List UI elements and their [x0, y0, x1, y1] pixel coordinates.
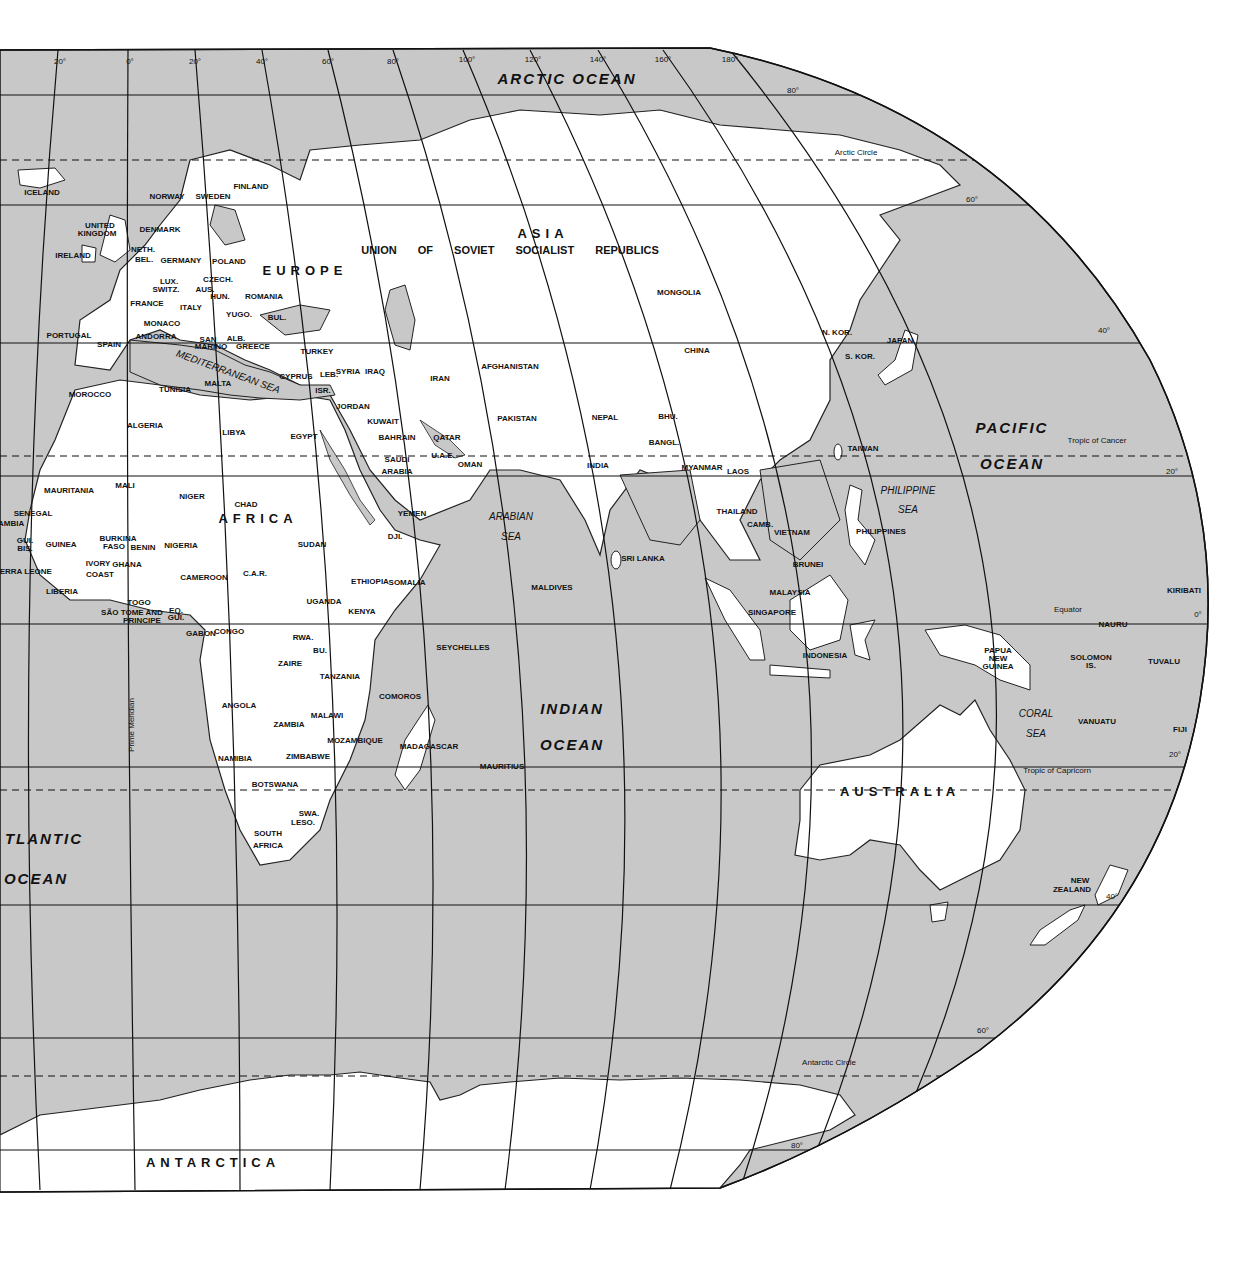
country-label-saudi: SAUDI — [385, 456, 410, 464]
degree-label: 20° — [189, 58, 201, 66]
continent-label-asia: ASIA — [517, 227, 568, 240]
country-label-guinea: GUINEA — [982, 663, 1013, 671]
country-label-comoros: COMOROS — [379, 693, 421, 701]
country-label-mauritania: MAURITANIA — [44, 487, 94, 495]
degree-label: 180° — [722, 56, 739, 64]
ocean-label-arctic-ocean: ARCTIC OCEAN — [498, 71, 637, 86]
ocean-label-ocean: OCEAN — [980, 456, 1044, 471]
country-label-isr: ISR. — [315, 387, 331, 395]
country-label-zaire: ZAIRE — [278, 660, 302, 668]
country-label-niger: NIGER — [179, 493, 204, 501]
country-label-sweden: SWEDEN — [195, 193, 230, 201]
country-label-italy: ITALY — [180, 304, 202, 312]
country-label-bahrain: BAHRAIN — [379, 434, 416, 442]
country-label-maldives: MALDIVES — [531, 584, 572, 592]
country-label-cyprus: CYPRUS — [279, 373, 312, 381]
country-label-sierra-leone: SIERRA LEONE — [0, 568, 52, 576]
country-label-greece: GREECE — [236, 343, 270, 351]
country-label-norway: NORWAY — [149, 193, 184, 201]
ocean-label-indian: INDIAN — [540, 701, 604, 716]
country-label-togo: TOGO — [127, 599, 150, 607]
country-label-gambia: GAMBIA — [0, 520, 24, 528]
country-label-switz: SWITZ. — [152, 286, 179, 294]
country-label-angola: ANGOLA — [222, 702, 257, 710]
country-label-namibia: NAMIBIA — [218, 755, 252, 763]
country-label-ivory: IVORY — [86, 560, 111, 568]
continent-label-europe: EUROPE — [263, 264, 348, 277]
country-label-botswana: BOTSWANA — [252, 781, 299, 789]
degree-label: 40° — [1098, 327, 1110, 335]
ocean-label-ocean: OCEAN — [540, 737, 604, 752]
country-label-camb: CAMB. — [747, 521, 773, 529]
country-label-c-a-r: C.A.R. — [243, 570, 267, 578]
continent-label-africa: AFRICA — [218, 512, 297, 525]
sea-label-sea: SEA — [898, 505, 918, 515]
country-label-poland: POLAND — [212, 258, 246, 266]
degree-label: 120° — [525, 56, 542, 64]
country-label-brunei: BRUNEI — [793, 561, 824, 569]
country-label-s-kor: S. KOR. — [845, 353, 875, 361]
country-label-yemen: YEMEN — [398, 510, 426, 518]
country-label-iran: IRAN — [430, 375, 450, 383]
country-label-malaysia: MALAYSIA — [769, 589, 810, 597]
line-label-tropic-of-cancer: Tropic of Cancer — [1068, 437, 1127, 445]
country-label-kenya: KENYA — [348, 608, 375, 616]
country-label-nauru: NAURU — [1099, 621, 1128, 629]
degree-label: 60° — [966, 196, 978, 204]
country-label-ireland: IRELAND — [55, 252, 91, 260]
ocean-label-ocean: OCEAN — [4, 871, 68, 886]
country-label-coast: COAST — [86, 571, 114, 579]
country-label-nigeria: NIGERIA — [164, 542, 197, 550]
country-label-india: INDIA — [587, 462, 609, 470]
degree-label: 20° — [1169, 751, 1181, 759]
sea-label-arabian: ARABIAN — [489, 512, 533, 522]
country-label-iceland: ICELAND — [24, 189, 60, 197]
degree-label: 40° — [256, 58, 268, 66]
country-label-morocco: MOROCCO — [69, 391, 112, 399]
degree-label: 20° — [1166, 468, 1178, 476]
country-label-myanmar: MYANMAR — [681, 464, 722, 472]
degree-label: 100° — [459, 56, 476, 64]
country-label-principe: PRINCIPE — [123, 617, 161, 625]
country-label-marino: MARINO — [195, 343, 227, 351]
country-label-andorra: ANDORRA — [136, 333, 177, 341]
country-label-sri-lanka: SRI LANKA — [621, 555, 665, 563]
country-label-senegal: SENEGAL — [14, 510, 53, 518]
country-label-finland: FINLAND — [233, 183, 268, 191]
degree-label: 160° — [655, 56, 672, 64]
country-label-romania: ROMANIA — [245, 293, 283, 301]
country-label-vietnam: VIETNAM — [774, 529, 810, 537]
country-label-taiwan: TAIWAN — [848, 445, 879, 453]
country-label-pakistan: PAKISTAN — [497, 415, 537, 423]
country-label-monaco: MONACO — [144, 320, 180, 328]
country-label-indonesia: INDONESIA — [803, 652, 847, 660]
country-label-faso: FASO — [103, 543, 125, 551]
country-label-tanzania: TANZANIA — [320, 673, 360, 681]
country-label-spain: SPAIN — [97, 341, 121, 349]
country-label-nepal: NEPAL — [592, 414, 619, 422]
country-label-kuwait: KUWAIT — [367, 418, 399, 426]
country-label-egypt: EGYPT — [290, 433, 317, 441]
country-label-africa: AFRICA — [253, 842, 283, 850]
degree-label: 0° — [1194, 611, 1202, 619]
line-label-prime-meridian: Prime Meridian — [128, 698, 136, 752]
country-label-singapore: SINGAPORE — [748, 609, 796, 617]
country-label-zealand: ZEALAND — [1053, 886, 1091, 894]
country-label-somalia: SOMALIA — [389, 579, 426, 587]
country-label-new: NEW — [1071, 877, 1090, 885]
country-label-mozambique: MOZAMBIQUE — [327, 737, 383, 745]
country-label-swa: SWA. — [299, 810, 319, 818]
line-label-antarctic-circle: Antarctic Circle — [802, 1059, 856, 1067]
country-label-vanuatu: VANUATU — [1078, 718, 1116, 726]
country-label-japan: JAPAN — [887, 337, 914, 345]
country-label-mali: MALI — [115, 482, 135, 490]
country-label-jordan: JORDAN — [336, 403, 370, 411]
degree-label: 60° — [322, 58, 334, 66]
country-label-sudan: SUDAN — [298, 541, 326, 549]
country-label-gabon: GABON — [186, 630, 216, 638]
country-label-philippines: PHILIPPINES — [856, 528, 906, 536]
country-label-is: IS. — [1086, 662, 1096, 670]
country-label-turkey: TURKEY — [301, 348, 334, 356]
country-label-benin: BENIN — [131, 544, 156, 552]
degree-label: 80° — [387, 58, 399, 66]
